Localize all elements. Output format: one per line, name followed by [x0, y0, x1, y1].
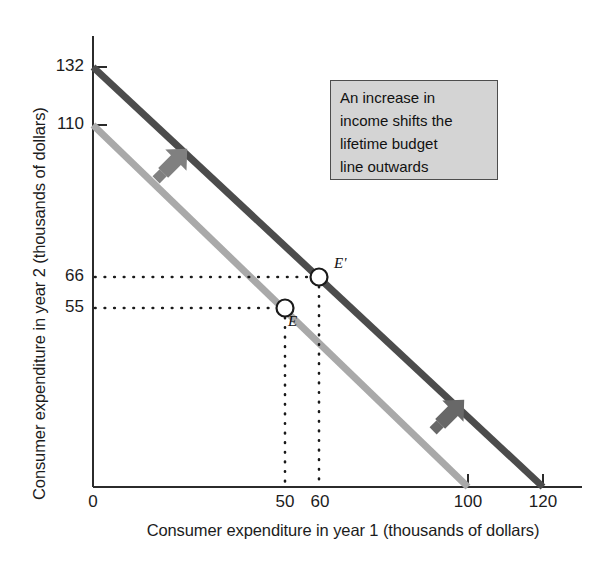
- budget-line-plot: [0, 0, 597, 561]
- x-axis-title: Consumer expenditure in year 1 (thousand…: [93, 521, 593, 540]
- data-point-e-prime: [311, 269, 328, 286]
- y-axis-title: Consumer expenditure in year 2 (thousand…: [30, 30, 60, 500]
- annotation-line-2: income shifts the: [340, 109, 489, 132]
- point-label-e-prime: E': [334, 255, 346, 272]
- annotation-note: An increase in income shifts the lifetim…: [330, 80, 498, 180]
- x-tick-label-0: 0: [71, 492, 115, 512]
- annotation-line-1: An increase in: [340, 86, 489, 109]
- x-tick-label-120: 120: [521, 492, 565, 512]
- chart-figure: 132 110 66 55 0 50 60 100 120 E E' Consu…: [0, 0, 597, 561]
- x-tick-label-60: 60: [298, 492, 342, 512]
- x-tick-label-100: 100: [446, 492, 490, 512]
- point-label-e: E: [288, 313, 297, 330]
- annotation-line-4: line outwards: [340, 155, 489, 178]
- annotation-line-3: lifetime budget: [340, 132, 489, 155]
